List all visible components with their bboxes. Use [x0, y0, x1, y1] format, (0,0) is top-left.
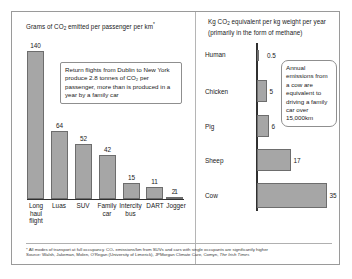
bar-sheep [257, 149, 291, 171]
livestock-emissions-panel: Kg CO2 equivalent per kg weight per year… [195, 12, 342, 264]
bar-chicken [257, 80, 267, 102]
footnote-source-text: Source: Walsh, Jakeman, Molen, O'Regan (… [26, 252, 220, 257]
footnotes: * All modes of transport at full occupan… [26, 243, 332, 258]
category-label-family-car: Family car [95, 202, 119, 217]
bar-column-long-haul-flight: 140 [27, 39, 44, 199]
bar-intercity-bus [123, 183, 140, 199]
category-label-suv: SUV [72, 202, 94, 210]
category-label-intercity-bus: Intercity bus [118, 202, 143, 217]
footnote-source: Source: Walsh, Jakeman, Molen, O'Regan (… [26, 252, 332, 258]
bar-luas [51, 131, 68, 199]
bar-dart [146, 187, 163, 199]
bar-cyclist [169, 197, 183, 199]
bar-value-dart: 11 [151, 178, 158, 185]
bar-row-sheep: 17 [257, 149, 337, 171]
bar-value-long-haul-flight: 140 [30, 42, 41, 49]
bar-value-family-car: 42 [104, 146, 111, 153]
bar-value-suv: 52 [80, 135, 87, 142]
left-chart-title: Grams of CO2 emitted per passenger per k… [26, 21, 186, 34]
category-label-cow: Cow [201, 192, 253, 199]
bar-cow [257, 183, 327, 208]
bar-value-pig: 6 [272, 123, 276, 130]
bar-row-cow: 35 [257, 183, 347, 208]
category-label-luas: Luas [48, 202, 70, 210]
bar-value-sheep: 17 [294, 157, 301, 164]
category-label-chicken: Chicken [201, 88, 253, 95]
bar-long-haul-flight [27, 51, 44, 199]
bar-family-car [99, 155, 116, 199]
bar-value-cyclist: 1 [174, 188, 178, 195]
bar-value-cow: 35 [330, 192, 337, 199]
infographic-figure: Grams of CO2 emitted per passenger per k… [11, 11, 340, 265]
bar-value-chicken: 5 [270, 88, 274, 95]
category-label-long-haul-flight: Long haul flight [25, 202, 47, 225]
callout-flight-emissions: Return flights from Dublin to New York p… [60, 62, 182, 104]
bar-value-luas: 64 [56, 122, 63, 129]
bar-value-human: 0.5 [267, 52, 276, 59]
callout-cow-emissions: Annual emissions from a cow are equivale… [281, 60, 337, 127]
bar-human [257, 50, 259, 61]
left-title-footnote-marker: * [153, 22, 155, 27]
transport-emissions-panel: Grams of CO2 emitted per passenger per k… [12, 12, 195, 264]
bar-column-cyclist: 1 [169, 182, 183, 199]
category-label-pig: Pig [201, 123, 253, 130]
bar-pig [257, 115, 269, 137]
category-label-sheep: Sheep [201, 157, 253, 164]
footnote-source-publication: The Irish Times [220, 252, 250, 257]
category-label-human: Human [201, 51, 253, 58]
category-label-jogger: Jogger [164, 202, 188, 210]
bar-value-intercity-bus: 15 [128, 174, 135, 181]
vertical-chart-baseline [27, 199, 184, 200]
bar-suv [75, 144, 92, 199]
right-chart-title: Kg CO2 equivalent per kg weight per year… [208, 18, 338, 37]
